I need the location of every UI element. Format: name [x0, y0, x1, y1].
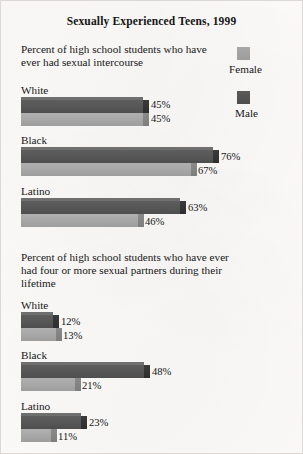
section-2-intro: Percent of high school students who have… — [21, 251, 236, 291]
value-section-2-white-male: 12% — [61, 316, 80, 327]
bar-right-cap — [143, 100, 149, 113]
bar-section-2-white-female — [21, 328, 56, 341]
value-section-1-latino-female: 46% — [145, 216, 164, 227]
bar-right-cap — [213, 150, 219, 163]
bar-face — [21, 416, 81, 429]
value-section-2-latino-female: 11% — [58, 431, 77, 442]
bar-right-cap — [81, 416, 87, 429]
legend-label-male: Male — [235, 107, 258, 119]
section-1-group-label-latino: Latino — [21, 185, 50, 197]
bar-face — [21, 328, 56, 341]
bar-face — [21, 163, 191, 176]
bar-right-cap — [51, 429, 57, 442]
bar-right-cap — [75, 378, 81, 391]
bar-face — [21, 315, 53, 328]
bar-right-cap — [138, 214, 144, 227]
bar-section-2-black-female — [21, 378, 75, 391]
bar-right-cap — [180, 201, 186, 214]
chart-page: Sexually Experienced Teens, 1999 Female … — [0, 0, 303, 454]
bar-right-cap — [53, 315, 59, 328]
page-title: Sexually Experienced Teens, 1999 — [1, 15, 302, 27]
value-section-2-latino-male: 23% — [89, 417, 108, 428]
bar-right-cap — [144, 365, 150, 378]
value-section-2-white-female: 13% — [63, 330, 82, 341]
bar-section-2-black-male — [21, 365, 144, 378]
bar-section-1-black-male — [21, 150, 213, 163]
value-section-2-black-male: 48% — [152, 366, 171, 377]
bar-right-cap — [143, 113, 149, 126]
section-1-bars-white — [21, 100, 143, 126]
section-1-intro: Percent of high school students who have… — [21, 43, 221, 69]
legend-swatch-male — [237, 91, 250, 104]
bar-section-2-latino-male — [21, 416, 81, 429]
value-section-1-white-male: 45% — [151, 99, 170, 110]
bar-section-1-latino-male — [21, 201, 180, 214]
section-2-bars-white — [21, 315, 56, 341]
section-2-group-label-black: Black — [21, 349, 47, 361]
section-2-group-label-white: White — [21, 299, 48, 311]
bar-section-2-white-male — [21, 315, 53, 328]
section-1-group-label-white: White — [21, 84, 48, 96]
bar-face — [21, 378, 75, 391]
bar-section-2-latino-female — [21, 429, 51, 442]
bar-face — [21, 365, 144, 378]
legend-label-female: Female — [229, 63, 262, 75]
bar-face — [21, 150, 213, 163]
bar-right-cap — [56, 328, 62, 341]
bar-face — [21, 113, 143, 126]
section-2-group-label-latino: Latino — [21, 400, 50, 412]
value-section-1-black-male: 76% — [221, 151, 240, 162]
value-section-2-black-female: 21% — [82, 380, 101, 391]
value-section-1-white-female: 45% — [151, 113, 170, 124]
value-section-1-black-female: 67% — [198, 165, 217, 176]
bar-section-1-latino-female — [21, 214, 138, 227]
value-section-1-latino-male: 63% — [188, 202, 207, 213]
legend-swatch-female — [237, 47, 250, 60]
bar-section-1-white-female — [21, 113, 143, 126]
bar-section-1-black-female — [21, 163, 191, 176]
section-1-group-label-black: Black — [21, 134, 47, 146]
bar-face — [21, 214, 138, 227]
bar-face — [21, 100, 143, 113]
bar-face — [21, 201, 180, 214]
section-1-bars-black — [21, 150, 213, 176]
bar-right-cap — [191, 163, 197, 176]
bar-section-1-white-male — [21, 100, 143, 113]
bar-face — [21, 429, 51, 442]
